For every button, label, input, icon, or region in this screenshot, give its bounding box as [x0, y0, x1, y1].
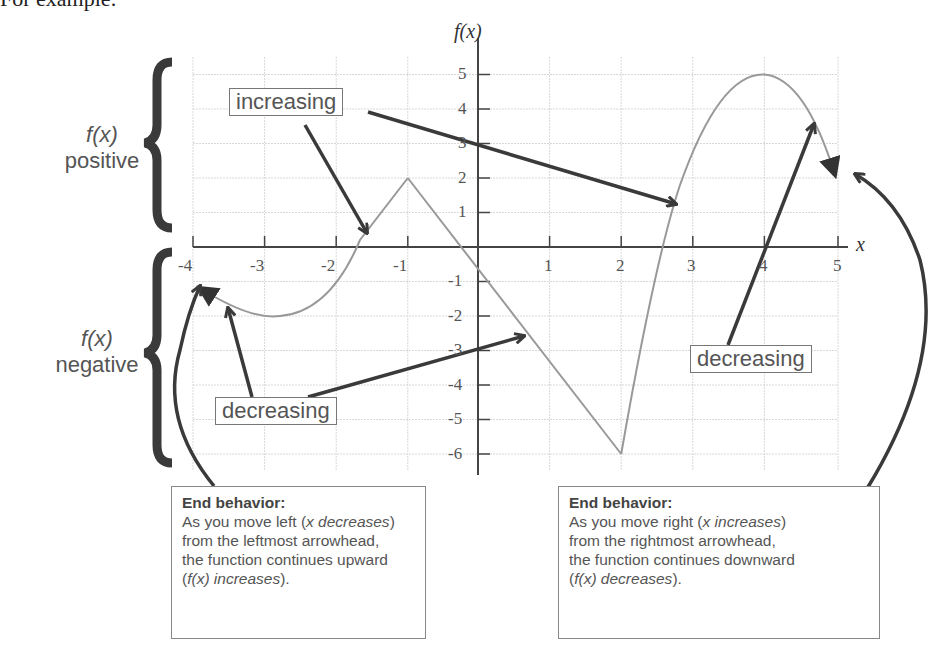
arrow-end-behavior-right	[855, 174, 926, 487]
end-behavior-right-line1: As you move right (x increases)	[569, 512, 871, 531]
y-axis-title: f(x)	[454, 20, 482, 43]
label-negative-word: negative	[42, 352, 152, 378]
y-tick-label: -6	[448, 444, 462, 464]
arrow-increasing-right	[368, 112, 676, 204]
label-fx-positive: f(x) positive	[52, 122, 152, 174]
annotation-arrows	[175, 112, 927, 487]
x-tick-label: -2	[321, 256, 335, 276]
callout-decreasing-left: decreasing	[215, 397, 337, 425]
x-tick-label: 3	[687, 256, 696, 276]
end-behavior-right-line4: (f(x) decreases).	[569, 569, 871, 588]
end-behavior-left-line4: (f(x) increases).	[182, 569, 417, 588]
x-axis-ticks	[193, 236, 838, 247]
x-axis-title: x	[856, 233, 865, 256]
y-axis-ticks	[478, 75, 490, 455]
arrow-decreasing-right	[728, 124, 814, 345]
label-fx: f(x)	[52, 122, 152, 148]
y-tick-label: 2	[458, 168, 467, 188]
end-behavior-left-line2: from the leftmost arrowhead,	[182, 531, 417, 550]
x-tick-label: 4	[759, 256, 768, 276]
y-tick-label: -5	[448, 409, 462, 429]
x-tick-label: -3	[250, 256, 264, 276]
y-tick-label: 5	[458, 64, 467, 84]
end-behavior-right-line3: the function continues downward	[569, 550, 871, 569]
end-behavior-right-title: End behavior:	[569, 493, 871, 512]
callout-increasing: increasing	[229, 88, 343, 116]
end-behavior-left-title: End behavior:	[182, 493, 417, 512]
y-tick-label: -4	[448, 375, 462, 395]
x-tick-label: 2	[616, 256, 625, 276]
label-positive-word: positive	[52, 148, 152, 174]
label-fx: f(x)	[42, 326, 152, 352]
y-tick-label: -1	[448, 271, 462, 291]
x-tick-label: -4	[178, 256, 192, 276]
end-behavior-right-box: End behavior: As you move right (x incre…	[558, 486, 880, 639]
arrow-decreasing-middle	[308, 336, 524, 397]
y-tick-label: 1	[458, 202, 467, 222]
arrow-decreasing-left	[228, 308, 252, 397]
end-behavior-right-line2: from the rightmost arrowhead,	[569, 531, 871, 550]
end-behavior-left-line1: As you move left (x decreases)	[182, 512, 417, 531]
callout-decreasing-right: decreasing	[690, 345, 812, 373]
end-behavior-left-line3: the function continues upward	[182, 550, 417, 569]
end-behavior-left-box: End behavior: As you move left (x decrea…	[171, 486, 426, 639]
label-fx-negative: f(x) negative	[42, 326, 152, 378]
y-tick-label: 4	[458, 99, 467, 119]
x-tick-label: 1	[544, 256, 553, 276]
y-tick-label: -3	[448, 340, 462, 360]
x-tick-label: -1	[393, 256, 407, 276]
y-tick-label: 3	[458, 133, 467, 153]
y-tick-label: -2	[448, 306, 462, 326]
x-tick-label: 5	[833, 256, 842, 276]
